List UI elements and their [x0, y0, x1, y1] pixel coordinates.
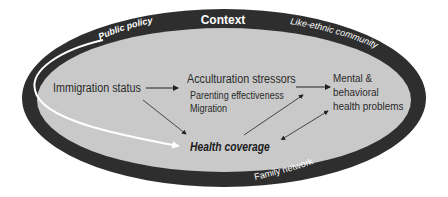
- node-acculturation-stressors: Acculturation stressors: [187, 72, 296, 86]
- node-health-coverage: Health coverage: [190, 140, 270, 154]
- node-parenting-effectiveness: Parenting effectiveness: [190, 89, 284, 101]
- node-mental-line2: behavioral: [333, 86, 379, 98]
- node-mental-line1: Mental &: [333, 72, 372, 84]
- node-migration: Migration: [190, 102, 227, 114]
- node-immigration-status: Immigration status: [53, 81, 141, 95]
- node-mental-line3: health problems: [333, 100, 403, 112]
- context-title: Context: [201, 13, 246, 27]
